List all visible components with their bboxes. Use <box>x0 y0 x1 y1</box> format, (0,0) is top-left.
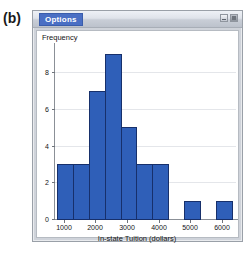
x-axis-title: In-state Tuition (dollars) <box>45 234 229 243</box>
x-axis-tick <box>159 220 160 223</box>
x-axis-tick-label: 1000 <box>49 224 79 231</box>
y-axis-tick-label: 6 <box>35 106 49 113</box>
x-axis-tick <box>222 220 223 223</box>
x-axis-tick-label: 5000 <box>175 224 205 231</box>
histogram-bar <box>121 127 137 220</box>
x-axis-tick-label: 4000 <box>144 224 174 231</box>
y-axis-tick-label: 2 <box>35 179 49 186</box>
y-axis-tick <box>52 219 55 220</box>
window-controls <box>220 14 238 22</box>
close-icon <box>232 16 236 20</box>
minimize-icon <box>222 18 226 20</box>
histogram: 02468100020003000400050006000 <box>37 31 238 237</box>
histogram-bar <box>73 164 90 220</box>
plot-window: Options Frequency 0246810002000300040005… <box>32 10 243 242</box>
y-axis-line <box>54 43 55 220</box>
options-menu-button[interactable]: Options <box>39 13 83 26</box>
y-axis-tick-label: 0 <box>35 216 49 223</box>
x-axis-tick-label: 3000 <box>112 224 142 231</box>
x-axis-tick <box>95 220 96 223</box>
histogram-bar <box>136 164 153 220</box>
y-axis-tick <box>52 146 55 147</box>
histogram-bar <box>184 201 201 220</box>
histogram-bar <box>216 201 233 220</box>
y-axis-tick-label: 4 <box>35 143 49 150</box>
window-titlebar: Options <box>33 11 242 28</box>
x-axis-tick <box>64 220 65 223</box>
y-axis-tick <box>52 109 55 110</box>
panel-label: (b) <box>3 10 21 26</box>
y-axis-tick <box>52 182 55 183</box>
histogram-bar <box>57 164 74 220</box>
histogram-bar <box>105 54 122 220</box>
minimize-button[interactable] <box>220 14 228 22</box>
gridline <box>54 109 236 110</box>
y-axis-tick-label: 8 <box>35 69 49 76</box>
histogram-bar <box>89 91 106 220</box>
histogram-bar <box>152 164 169 220</box>
x-axis-tick <box>127 220 128 223</box>
x-axis-tick <box>190 220 191 223</box>
chart-canvas: Frequency 02468100020003000400050006000 … <box>36 30 239 238</box>
close-button[interactable] <box>230 14 238 22</box>
y-axis-tick <box>52 72 55 73</box>
gridline <box>54 146 236 147</box>
x-axis-tick-label: 2000 <box>80 224 110 231</box>
gridline <box>54 72 236 73</box>
x-axis-tick-label: 6000 <box>207 224 237 231</box>
